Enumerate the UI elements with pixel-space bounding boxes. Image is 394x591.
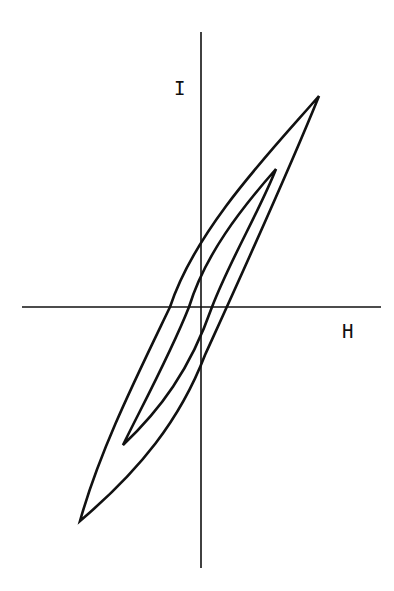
x-axis-label: H xyxy=(342,320,353,342)
y-axis-label: I xyxy=(174,77,185,99)
hysteresis-diagram: I H xyxy=(0,0,394,591)
outer-loop xyxy=(80,96,319,521)
